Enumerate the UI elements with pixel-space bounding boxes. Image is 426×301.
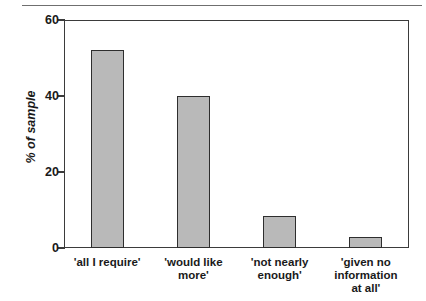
y-axis-tick-label: 0: [29, 242, 59, 255]
y-axis-tick-label: 20: [29, 166, 59, 179]
bar: [91, 50, 124, 248]
x-axis-tick-label: 'given no information at all': [314, 256, 418, 295]
bar-chart-figure: % of sample 0204060 'all I require''woul…: [0, 0, 426, 301]
bars-layer: [64, 20, 409, 248]
y-axis-tick-label: 60: [29, 14, 59, 27]
bar: [349, 237, 382, 248]
bar: [263, 216, 296, 248]
y-axis-tick-label: 40: [29, 90, 59, 103]
bar: [177, 96, 210, 248]
top-divider-rule: [22, 5, 422, 6]
